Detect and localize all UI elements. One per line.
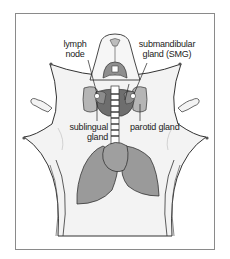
label-sublingual-line1: sublingual <box>64 122 108 132</box>
right-forepaw <box>178 99 199 113</box>
label-smg-line2: gland (SMG) <box>136 49 198 59</box>
label-lymph-node-line2: node <box>57 49 93 59</box>
pin-top-right <box>178 62 181 65</box>
pin-top-left <box>49 62 52 65</box>
lymph-node-left <box>94 93 99 98</box>
incisors <box>112 66 118 72</box>
label-submandibular-gland: submandibular gland (SMG) <box>136 39 198 59</box>
label-smg-line1: submandibular <box>136 39 198 49</box>
label-sublingual-line2: gland <box>64 132 108 142</box>
label-lymph-node-line1: lymph <box>57 39 93 49</box>
label-parotid-line1: parotid gland <box>130 122 190 132</box>
lymph-node-right <box>130 93 135 98</box>
pin-left <box>22 136 25 139</box>
left-forepaw <box>31 99 52 113</box>
label-lymph-node: lymph node <box>57 39 93 59</box>
pin-right <box>205 136 208 139</box>
label-sublingual-gland: sublingual gland <box>64 122 108 142</box>
label-parotid-gland: parotid gland <box>130 122 190 132</box>
